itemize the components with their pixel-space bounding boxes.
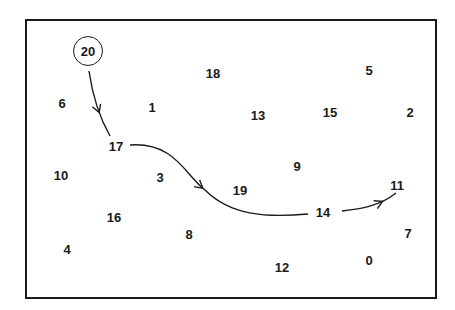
path-layer: [0, 0, 455, 310]
node-label: 2: [406, 106, 413, 119]
start-node-label: 20: [81, 45, 95, 58]
node-label: 17: [109, 140, 123, 153]
node-label: 16: [107, 211, 121, 224]
node-label: 15: [323, 106, 337, 119]
node-label: 4: [63, 243, 70, 256]
node-label: 7: [404, 227, 411, 240]
node-label: 10: [54, 169, 68, 182]
node-label: 11: [390, 179, 404, 192]
path-edge-14-to-11: [342, 193, 396, 211]
node-label: 18: [206, 67, 220, 80]
node-label: 13: [251, 109, 265, 122]
node-label: 19: [233, 184, 247, 197]
node-label: 0: [365, 254, 372, 267]
node-label: 3: [156, 171, 163, 184]
path-edge-20-to-17: [89, 71, 110, 136]
node-label: 14: [316, 206, 330, 219]
node-label: 6: [58, 97, 65, 110]
node-label: 1: [148, 101, 155, 114]
diagram-canvas: 20185611315217910319111416874012: [0, 0, 455, 310]
node-label: 5: [365, 64, 372, 77]
node-label: 8: [185, 228, 192, 241]
node-label: 9: [293, 160, 300, 173]
node-label: 12: [275, 261, 289, 274]
